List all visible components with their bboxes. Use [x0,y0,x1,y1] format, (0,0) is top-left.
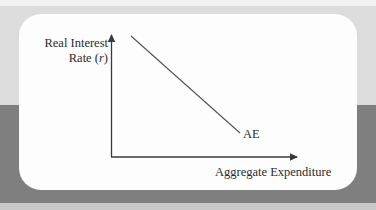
ae-curve [131,36,240,133]
ae-curve-label: AE [243,127,260,142]
y-axis-label-line1: Real Interest [44,36,108,50]
figure-page: Real Interest Rate (r) AE Aggregate Expe… [0,0,376,210]
y-axis-label: Real Interest Rate (r) [26,36,108,66]
y-axis-label-line2-suffix: ) [104,51,108,65]
y-axis-label-line2-prefix: Rate ( [69,51,99,65]
x-axis-label: Aggregate Expenditure [215,165,331,180]
